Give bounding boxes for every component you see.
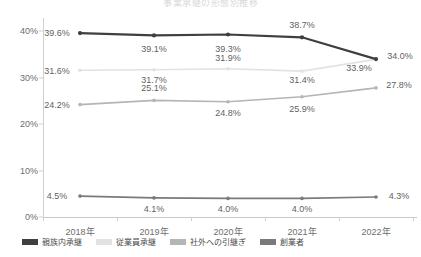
data-label-founder-2021: 4.0% [292, 204, 313, 214]
plot-area: 0% 10% 20% 30% 40% 2018年 2019年 2020年 202… [43, 22, 413, 217]
legend-label-founder: 創業者 [280, 236, 304, 247]
legend-item-founder[interactable]: 創業者 [260, 236, 304, 247]
data-label-external-2019: 25.1% [141, 83, 167, 93]
markers-series-external [78, 86, 378, 106]
legend-label-employee: 従業員承継 [116, 236, 156, 247]
data-label-employee-2021: 31.4% [289, 75, 315, 85]
data-label-external-2022: 27.8% [386, 80, 412, 90]
legend-swatch-icon-external [170, 239, 186, 245]
legend-label-family: 親族内承継 [42, 236, 82, 247]
data-label-external-2021: 25.9% [289, 104, 315, 114]
x-tick-mark-4 [339, 217, 340, 221]
x-tick-mark-1 [117, 217, 118, 221]
chart-container: 事業承継の形態別推移 0% 10% 20% 30% 40% 2018年 2019… [0, 0, 421, 257]
data-label-founder-2019: 4.1% [144, 204, 165, 214]
x-tick-mark-5 [413, 217, 414, 221]
legend-item-family[interactable]: 親族内承継 [22, 236, 82, 247]
legend-swatch-icon-family [22, 239, 38, 245]
data-label-external-2018: 24.2% [44, 100, 70, 110]
data-label-external-2020: 24.8% [215, 108, 241, 118]
data-label-family-2022: 34.0% [387, 51, 413, 61]
legend-swatch-icon-employee [96, 239, 112, 245]
data-label-founder-2018: 4.5% [47, 191, 68, 201]
x-tick-mark-3 [265, 217, 266, 221]
data-label-family-2021: 38.7% [289, 20, 315, 30]
x-tick-mark-0 [43, 217, 44, 221]
x-label-2022: 2022年 [361, 225, 390, 238]
data-label-family-2019: 39.1% [141, 44, 167, 54]
chart-title: 事業承継の形態別推移 [0, 0, 421, 9]
data-label-employee-2022: 33.9% [346, 63, 372, 73]
legend-label-external: 社外への引継ぎ [190, 236, 246, 247]
data-label-founder-2022: 4.3% [389, 191, 410, 201]
data-label-family-2018: 39.6% [44, 28, 70, 38]
data-label-employee-2020: 31.9% [215, 53, 241, 63]
x-tick-mark-2 [191, 217, 192, 221]
data-label-founder-2020: 4.0% [218, 204, 239, 214]
legend-swatch-icon-founder [260, 239, 276, 245]
data-label-employee-2018: 31.6% [44, 66, 70, 76]
chart-legend: 親族内承継 従業員承継 社外への引継ぎ 創業者 [22, 236, 304, 247]
legend-item-external[interactable]: 社外への引継ぎ [170, 236, 246, 247]
x-axis-line [43, 217, 417, 218]
legend-item-employee[interactable]: 従業員承継 [96, 236, 156, 247]
